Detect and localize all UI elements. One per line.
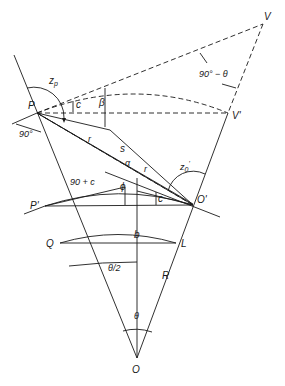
label-point-O: O bbox=[132, 364, 140, 375]
geodesy-diagram: V V' P P' O' O Q L zp z0' c β 90° r s α … bbox=[0, 0, 285, 386]
line-V-Vprime bbox=[228, 24, 263, 113]
label-alpha: α bbox=[125, 158, 131, 168]
label-theta-half: θ/2 bbox=[108, 263, 120, 273]
line-P-V bbox=[37, 24, 263, 113]
arc-theta-half bbox=[69, 262, 137, 266]
line-Pprime-phi bbox=[45, 187, 125, 206]
label-s: s bbox=[120, 143, 125, 154]
label-point-P: P bbox=[28, 100, 35, 111]
label-r-upper: r bbox=[88, 134, 92, 144]
arc-Q-L bbox=[60, 235, 176, 244]
label-point-Vprime: V' bbox=[232, 110, 242, 121]
label-c-top: c bbox=[76, 99, 81, 110]
label-point-V: V bbox=[264, 11, 272, 22]
label-90deg: 90° bbox=[19, 129, 33, 139]
label-zp: zp bbox=[48, 75, 58, 88]
label-beta: β bbox=[98, 97, 105, 108]
arc-P-Vprime bbox=[37, 94, 228, 113]
line-P-Oprime-2 bbox=[37, 113, 193, 204]
label-point-L: L bbox=[181, 238, 187, 249]
label-90-plus-c: 90 + c bbox=[70, 177, 95, 187]
arrowhead-zp bbox=[62, 118, 66, 123]
radial-line-right bbox=[137, 113, 228, 358]
label-90-minus-theta: 90° − θ bbox=[199, 69, 228, 79]
label-theta: θ bbox=[134, 311, 139, 321]
label-point-Q: Q bbox=[46, 238, 54, 249]
label-R: R bbox=[162, 270, 169, 281]
label-phi: ϕ bbox=[120, 181, 126, 192]
tangent-at-P bbox=[12, 113, 37, 124]
chord-Pprime-Oprime bbox=[45, 205, 193, 206]
tick-90minus-theta-2 bbox=[222, 84, 236, 88]
tick-90minus-theta-1 bbox=[200, 53, 207, 63]
label-b: b bbox=[134, 229, 140, 240]
label-r-lower: r bbox=[144, 164, 148, 174]
label-point-Oprime: O' bbox=[197, 194, 208, 205]
label-point-Pprime: P' bbox=[30, 200, 40, 211]
label-c-lower: c bbox=[158, 193, 163, 204]
